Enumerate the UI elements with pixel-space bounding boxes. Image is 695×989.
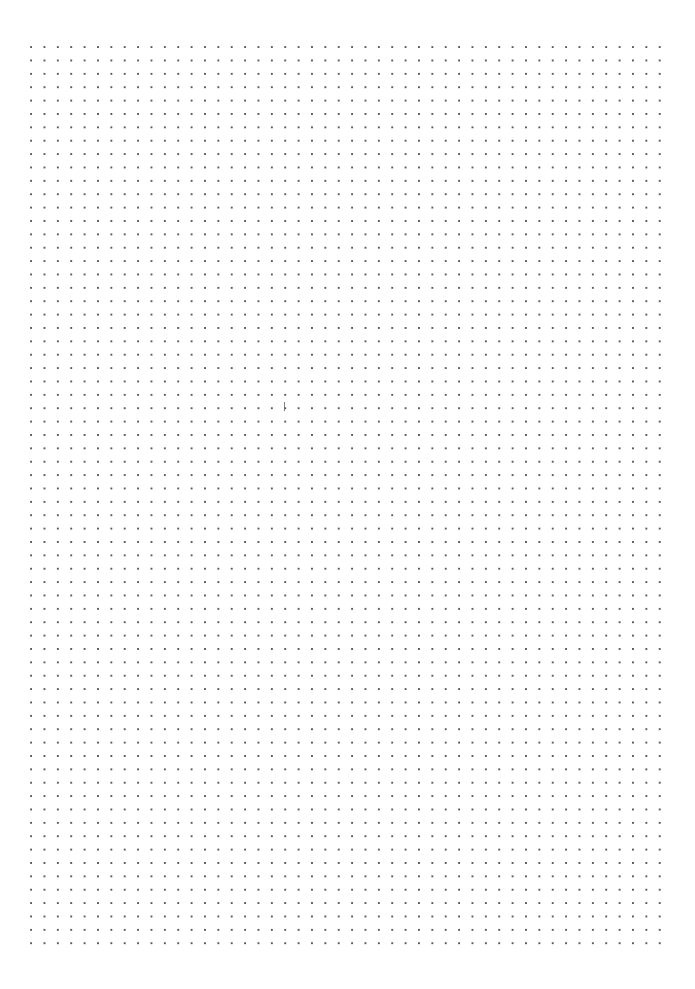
- caret-mark: [284, 402, 285, 411]
- dot-grid-canvas[interactable]: [0, 0, 695, 989]
- dot-grid-page: [0, 0, 695, 989]
- page-margin-right: [662, 0, 695, 989]
- page-margin-top: [0, 0, 695, 45]
- page-margin-left: [0, 0, 29, 989]
- page-margin-bottom: [0, 949, 695, 989]
